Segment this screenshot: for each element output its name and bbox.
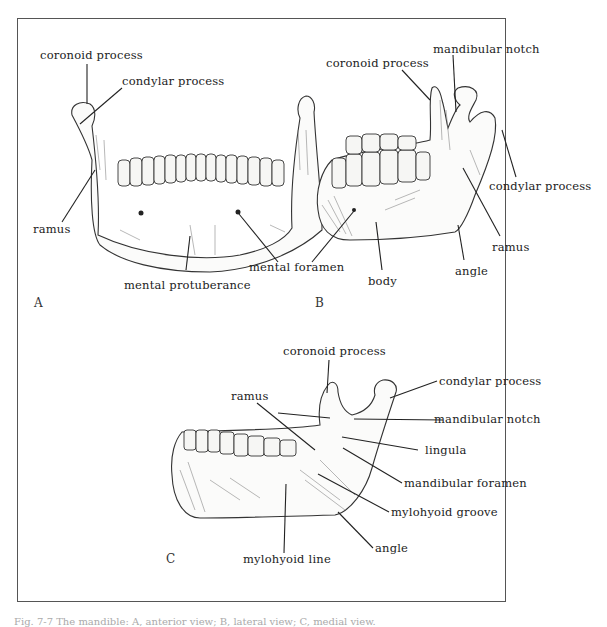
label-c-mandibular-notch: mandibular notch [434,412,541,426]
label-b-condylar-process: condylar process [489,179,591,193]
label-a-coronoid-process: coronoid process [40,48,143,62]
label-c-coronoid-process: coronoid process [283,344,386,358]
mandible-anterior-view [62,64,322,272]
label-b-body: body [368,274,397,288]
label-a-ramus: ramus [33,222,71,236]
label-a-mental-protuberance: mental protuberance [124,278,251,292]
label-b-coronoid-process: coronoid process [326,56,429,70]
label-c-mandibular-foramen: mandibular foramen [404,476,527,490]
label-c-mylohyoid-line: mylohyoid line [243,552,331,566]
label-c-mylohyoid-groove: mylohyoid groove [391,505,498,519]
label-a-mental-foramen: mental foramen [249,260,344,274]
label-c-ramus: ramus [231,389,269,403]
mandible-illustrations [0,0,607,627]
panel-letter-b: B [315,296,324,310]
teeth-row-a [118,154,284,186]
label-b-ramus: ramus [492,240,530,254]
label-c-angle: angle [375,541,408,555]
panel-letter-c: C [166,552,175,566]
label-c-condylar-process: condylar process [439,374,541,388]
label-b-mandibular-notch: mandibular notch [433,42,540,56]
label-c-lingula: lingula [425,443,466,457]
mandible-lateral-view [312,55,516,270]
label-b-angle: angle [455,264,488,278]
panel-letter-a: A [34,296,43,310]
mandible-medial-view [172,360,443,553]
figure-caption: Fig. 7-7 The mandible: A, anterior view;… [14,616,376,627]
label-a-condylar-process: condylar process [122,74,224,88]
teeth-row-b [332,134,430,188]
